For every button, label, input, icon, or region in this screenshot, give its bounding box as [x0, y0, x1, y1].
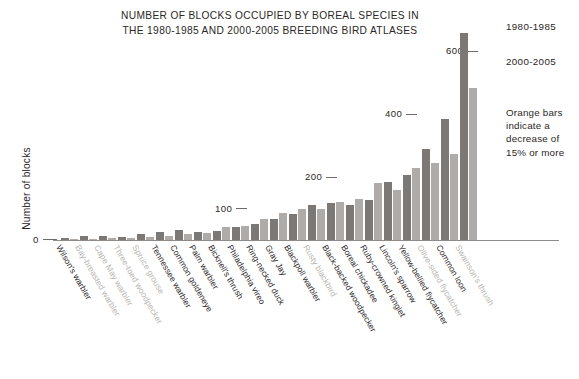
bar-1980-1985 [80, 236, 88, 240]
bar-1980-1985 [61, 238, 69, 240]
bar-1980-1985 [289, 214, 297, 240]
bar-2000-2005 [241, 226, 249, 240]
bar-2000-2005 [469, 88, 477, 240]
bar-group [422, 20, 441, 240]
legend-item-1980-1985: 1980-1985 [506, 21, 556, 32]
bar-2000-2005 [222, 227, 230, 240]
bar-1980-1985 [213, 231, 221, 240]
bar-2000-2005 [317, 209, 325, 240]
bar-1980-1985 [251, 224, 259, 240]
bar-1980-1985 [460, 33, 468, 240]
bar-1980-1985 [99, 236, 107, 240]
bar-2000-2005 [184, 234, 192, 240]
bar-2000-2005 [203, 233, 211, 240]
bar-group [232, 20, 251, 240]
bar-group [365, 20, 384, 240]
bar-2000-2005 [70, 239, 78, 240]
boreal-species-bar-chart: NUMBER OF BLOCKS OCCUPIED BY BOREAL SPEC… [0, 0, 579, 379]
bar-1980-1985 [194, 232, 202, 240]
bar-group [99, 20, 118, 240]
bar-2000-2005 [108, 238, 116, 240]
bar-2000-2005 [165, 236, 173, 240]
x-axis-baseline [53, 240, 559, 241]
bar-group [460, 20, 479, 240]
bar-2000-2005 [374, 183, 382, 240]
bar-1980-1985 [422, 149, 430, 240]
bar-1980-1985 [308, 205, 316, 240]
bar-2000-2005 [355, 199, 363, 240]
bar-group [346, 20, 365, 240]
y-tick-label: 0 [33, 234, 39, 245]
bar-1980-1985 [156, 232, 164, 240]
bar-2000-2005 [279, 213, 287, 240]
bar-1980-1985 [365, 200, 373, 240]
bar-group [441, 20, 460, 240]
bar-2000-2005 [412, 168, 420, 240]
legend-note: Orange bars indicate a decrease of 15% o… [506, 106, 576, 159]
bar-1980-1985 [441, 119, 449, 240]
bar-group [289, 20, 308, 240]
bar-group [384, 20, 403, 240]
bar-1980-1985 [403, 175, 411, 240]
bar-2000-2005 [127, 238, 135, 240]
bar-2000-2005 [336, 202, 344, 240]
bar-1980-1985 [346, 205, 354, 240]
bar-1980-1985 [175, 230, 183, 240]
bar-1980-1985 [384, 182, 392, 240]
bar-2000-2005 [146, 237, 154, 240]
plot-area [53, 20, 523, 240]
bar-1980-1985 [118, 237, 126, 240]
bar-1980-1985 [327, 203, 335, 240]
bar-2000-2005 [298, 209, 306, 240]
legend-item-2000-2005: 2000-2005 [506, 56, 556, 67]
bar-group [308, 20, 327, 240]
bar-group [175, 20, 194, 240]
bar-group [61, 20, 80, 240]
bar-2000-2005 [450, 154, 458, 240]
bar-group [156, 20, 175, 240]
bar-group [327, 20, 346, 240]
bar-1980-1985 [232, 227, 240, 240]
bar-group [251, 20, 270, 240]
bar-group [137, 20, 156, 240]
bar-2000-2005 [393, 190, 401, 240]
bar-group [80, 20, 99, 240]
bar-group [213, 20, 232, 240]
y-axis-label: Number of blocks [21, 134, 32, 244]
bar-2000-2005 [89, 239, 97, 240]
bar-2000-2005 [431, 163, 439, 240]
bar-2000-2005 [260, 219, 268, 240]
bar-group [270, 20, 289, 240]
bar-group [118, 20, 137, 240]
bar-1980-1985 [270, 219, 278, 240]
bar-1980-1985 [137, 234, 145, 240]
bar-group [194, 20, 213, 240]
bar-group [403, 20, 422, 240]
